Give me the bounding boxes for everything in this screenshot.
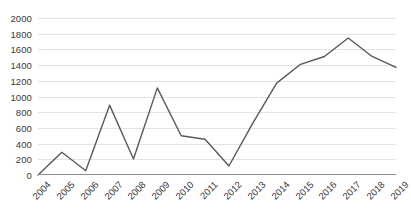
series-polyline (38, 38, 396, 175)
y-axis: 0200400600800100012001400160018002000 (0, 0, 36, 215)
y-axis-tick-label: 1000 (10, 91, 32, 102)
x-axis-tick-label: 2010 (173, 179, 196, 202)
y-axis-tick-label: 1800 (10, 28, 32, 39)
x-axis-tick-label: 2011 (198, 179, 220, 201)
y-axis-tick-label: 1600 (10, 44, 32, 55)
x-axis-tick-label: 2007 (102, 179, 125, 202)
x-axis-tick-label: 2018 (364, 179, 387, 202)
x-axis-tick-label: 2012 (221, 179, 244, 202)
y-axis-tick-label: 200 (16, 154, 32, 165)
x-axis-tick-label: 2019 (388, 179, 411, 202)
x-axis-tick-label: 2017 (340, 179, 363, 202)
y-axis-tick-label: 2000 (10, 13, 32, 24)
x-axis-tick-label: 2009 (149, 179, 172, 202)
x-axis-tick-label: 2014 (269, 179, 292, 202)
x-axis-tick-label: 2013 (245, 179, 268, 202)
x-axis-tick-label: 2005 (54, 179, 77, 202)
y-axis-tick-label: 800 (16, 107, 32, 118)
x-axis-tick-label: 2006 (78, 179, 101, 202)
data-series-line (38, 18, 396, 175)
plot-area (38, 18, 396, 175)
x-axis-tick-label: 2016 (316, 179, 339, 202)
y-axis-tick-label: 600 (16, 122, 32, 133)
y-axis-tick-label: 400 (16, 138, 32, 149)
y-axis-tick-label: 1400 (10, 60, 32, 71)
x-axis-tick-label: 2008 (126, 179, 149, 202)
x-axis: 2004200520062007200820092010201120122013… (38, 175, 396, 215)
x-axis-tick-label: 2015 (293, 179, 316, 202)
y-axis-tick-label: 1200 (10, 75, 32, 86)
y-axis-tick-label: 0 (27, 170, 32, 181)
